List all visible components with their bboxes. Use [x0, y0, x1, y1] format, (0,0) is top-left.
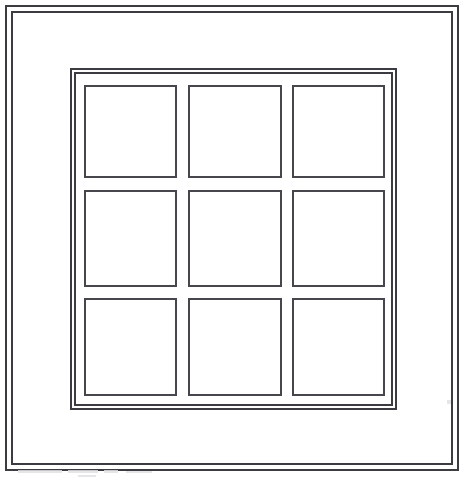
scan-artifact-mark: [18, 470, 62, 473]
pane-r3c1: [84, 298, 177, 396]
scan-artifact-mark: [447, 400, 451, 404]
pane-r2c2: [188, 190, 282, 287]
scan-artifact-mark: [126, 471, 152, 473]
scan-artifact-mark: [104, 470, 118, 473]
pane-r1c3: [292, 85, 385, 178]
pane-grid: [84, 85, 385, 396]
pane-r2c1: [84, 190, 177, 287]
pane-r3c3: [292, 298, 385, 396]
pane-r1c1: [84, 85, 177, 178]
drawing-canvas: [0, 0, 467, 478]
pane-r1c2: [188, 85, 282, 178]
pane-r2c3: [292, 190, 385, 287]
scan-artifact-mark: [78, 475, 96, 477]
scan-artifact-mark: [68, 470, 98, 473]
pane-r3c2: [188, 298, 282, 396]
